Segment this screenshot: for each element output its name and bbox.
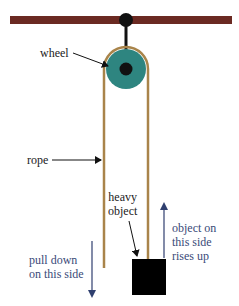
rises-up-label-line1: object on [172, 221, 216, 235]
wheel-axle [120, 63, 133, 76]
heavy-object-label: heavy object [108, 190, 137, 218]
mount-pivot [119, 13, 133, 27]
rises-up-label-line3: rises up [172, 249, 216, 263]
wheel-pointer-arrow [73, 53, 108, 66]
pull-down-label-line1: pull down [29, 253, 84, 267]
rises-up-label-line2: this side [172, 235, 216, 249]
pull-down-label: pull down on this side [29, 253, 84, 281]
heavy-object-label-line2: object [108, 204, 137, 218]
rises-up-label: object on this side rises up [172, 221, 216, 263]
heavy-object-pointer-arrow [129, 221, 137, 256]
heavy-object-label-line1: heavy [108, 190, 137, 204]
pull-down-label-line2: on this side [29, 267, 84, 281]
rope-label: rope [27, 153, 48, 167]
wheel-label: wheel [40, 46, 69, 60]
heavy-object [132, 259, 166, 295]
